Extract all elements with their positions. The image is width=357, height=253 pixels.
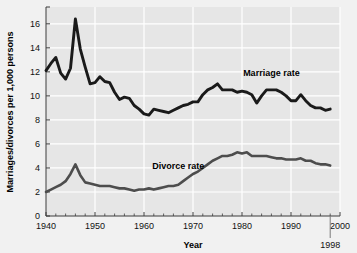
y-tick-label: 14 (30, 43, 40, 53)
y-tick-label: 8 (35, 115, 40, 125)
end-year-label: 1998 (320, 240, 340, 250)
y-tick-label: 0 (35, 211, 40, 221)
x-tick-label: 1990 (281, 221, 301, 231)
y-tick-label: 16 (30, 19, 40, 29)
y-axis-title: Marriages/divorces per 1,000 persons (5, 31, 15, 192)
x-axis-title: Year (183, 240, 203, 250)
x-tick-label: 1940 (36, 221, 56, 231)
y-tick-label: 12 (30, 67, 40, 77)
marriage-rate-label: Marriage rate (243, 68, 300, 78)
y-tick-label: 2 (35, 187, 40, 197)
x-tick-label: 1950 (85, 221, 105, 231)
y-tick-label: 4 (35, 163, 40, 173)
y-tick-label: 6 (35, 139, 40, 149)
x-tick-label: 1960 (134, 221, 154, 231)
x-tick-label: 2000 (330, 221, 350, 231)
y-tick-label: 10 (30, 91, 40, 101)
x-tick-label: 1980 (232, 221, 252, 231)
divorce-rate-label: Divorce rate (152, 161, 204, 171)
chart-container: 0246810121416194019501960197019801990200… (0, 0, 357, 253)
x-tick-label: 1970 (183, 221, 203, 231)
line-chart: 0246810121416194019501960197019801990200… (0, 0, 357, 253)
